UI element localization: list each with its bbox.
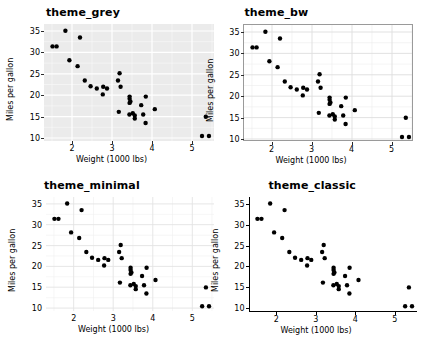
data-point bbox=[153, 107, 157, 111]
data-point bbox=[300, 93, 304, 97]
data-points bbox=[255, 201, 414, 308]
gridlines-minor bbox=[244, 25, 412, 140]
data-point bbox=[341, 113, 345, 117]
x-tick-label: 3 bbox=[102, 144, 122, 153]
data-point bbox=[282, 208, 286, 212]
data-point bbox=[327, 95, 331, 99]
plot-frame-theme-classic: 10 15 20 25 30 35 2 3 4 5 Weight (1000 l… bbox=[249, 197, 417, 311]
x-tick-label: 5 bbox=[182, 314, 202, 323]
y-tick-mark bbox=[41, 95, 44, 96]
data-point bbox=[134, 284, 138, 288]
data-point bbox=[331, 266, 335, 270]
data-point bbox=[255, 217, 259, 221]
data-point bbox=[50, 44, 54, 48]
data-point bbox=[402, 304, 406, 308]
data-point bbox=[292, 256, 296, 260]
plot-area-theme-minimal bbox=[46, 197, 214, 311]
x-tick-mark bbox=[152, 141, 153, 144]
data-point bbox=[318, 86, 322, 90]
y-tick-label: 15 bbox=[20, 283, 42, 292]
data-point bbox=[54, 44, 58, 48]
scatter-canvas-theme-grey bbox=[44, 24, 214, 141]
data-point bbox=[102, 256, 106, 260]
data-point bbox=[204, 285, 208, 289]
x-tick-mark bbox=[312, 142, 313, 145]
data-point bbox=[406, 285, 410, 289]
y-tick-label: 20 bbox=[218, 92, 240, 101]
y-tick-label: 25 bbox=[223, 242, 245, 251]
data-point bbox=[141, 112, 145, 116]
y-tick-label: 10 bbox=[218, 135, 240, 144]
data-point bbox=[259, 217, 263, 221]
y-tick-mark bbox=[246, 287, 249, 288]
y-tick-mark bbox=[41, 117, 44, 118]
y-axis-line bbox=[249, 197, 250, 311]
scatter-canvas-theme-classic bbox=[249, 197, 417, 311]
data-point bbox=[128, 272, 132, 276]
data-point bbox=[347, 266, 351, 270]
y-tick-label: 20 bbox=[18, 91, 40, 100]
x-axis-label: Weight (1000 lbs) bbox=[78, 325, 149, 334]
x-tick-label: 5 bbox=[382, 145, 402, 154]
y-tick-label: 15 bbox=[218, 114, 240, 123]
x-tick-label: 3 bbox=[103, 314, 123, 323]
x-axis-label: Weight (1000 lbs) bbox=[276, 156, 347, 165]
x-tick-mark bbox=[72, 141, 73, 144]
y-tick-label: 15 bbox=[223, 283, 245, 292]
data-point bbox=[127, 101, 131, 105]
data-point bbox=[301, 86, 305, 90]
data-point bbox=[409, 304, 413, 308]
x-tick-mark bbox=[395, 312, 396, 315]
data-point bbox=[95, 86, 99, 90]
data-point bbox=[207, 134, 211, 138]
data-point bbox=[294, 87, 298, 91]
x-tick-label: 4 bbox=[143, 314, 163, 323]
data-points bbox=[52, 201, 211, 308]
data-point bbox=[347, 291, 351, 295]
panel-title-theme-bw: theme_bw bbox=[245, 6, 309, 19]
data-point bbox=[153, 278, 157, 282]
x-tick-label: 4 bbox=[345, 315, 365, 324]
y-tick-label: 35 bbox=[218, 28, 240, 37]
data-point bbox=[280, 236, 284, 240]
data-point bbox=[127, 112, 131, 116]
data-point bbox=[118, 85, 122, 89]
data-point bbox=[117, 71, 121, 75]
scatter-canvas-theme-minimal bbox=[46, 197, 214, 311]
data-point bbox=[254, 45, 258, 49]
data-point bbox=[144, 291, 148, 295]
y-tick-label: 25 bbox=[218, 71, 240, 80]
data-point bbox=[63, 29, 67, 33]
data-point bbox=[144, 266, 148, 270]
x-tick-mark bbox=[272, 142, 273, 145]
gridlines-minor bbox=[46, 197, 214, 311]
data-point bbox=[263, 30, 267, 34]
data-point bbox=[200, 134, 204, 138]
plot-frame-theme-bw: 10 15 20 25 30 35 2 3 4 5 Weight (1000 l… bbox=[243, 24, 413, 141]
panel-title-theme-classic: theme_classic bbox=[269, 179, 356, 192]
y-tick-label: 10 bbox=[20, 304, 42, 313]
y-tick-mark bbox=[246, 266, 249, 267]
data-point bbox=[142, 283, 146, 287]
data-point bbox=[331, 272, 335, 276]
y-tick-mark bbox=[41, 31, 44, 32]
x-tick-label: 2 bbox=[64, 314, 84, 323]
data-point bbox=[331, 283, 335, 287]
plot-area-theme-bw bbox=[244, 25, 412, 140]
data-point bbox=[67, 58, 71, 62]
data-point bbox=[128, 266, 132, 270]
data-point bbox=[343, 95, 347, 99]
y-tick-mark bbox=[241, 75, 244, 76]
panel-title-theme-minimal: theme_minimal bbox=[44, 179, 140, 192]
data-point bbox=[317, 72, 321, 76]
y-axis-label: Miles per gallon bbox=[211, 229, 220, 292]
data-point bbox=[316, 111, 320, 115]
x-axis-label: Weight (1000 lbs) bbox=[281, 326, 352, 335]
y-tick-label: 30 bbox=[18, 48, 40, 57]
x-axis-line bbox=[249, 311, 417, 312]
plot-area-theme-classic bbox=[249, 197, 417, 311]
data-point bbox=[78, 35, 82, 39]
data-point bbox=[88, 84, 92, 88]
data-point bbox=[120, 256, 124, 260]
x-tick-label: 2 bbox=[62, 144, 82, 153]
